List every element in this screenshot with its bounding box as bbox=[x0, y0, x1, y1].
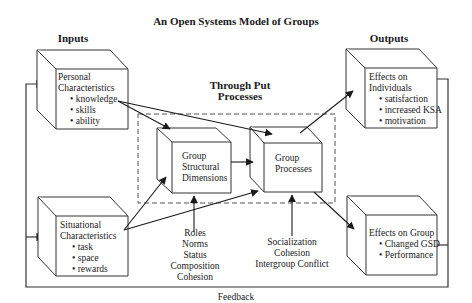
personal-title-1: Personal bbox=[58, 72, 91, 82]
feedback-label: Feedback bbox=[218, 292, 255, 302]
individuals-item: • satisfaction bbox=[379, 94, 428, 104]
individuals-title-1: Effects on bbox=[369, 72, 408, 82]
outputs-header: Outputs bbox=[370, 32, 409, 44]
effects-on-group-box: Effects on Group • Changed GSD • Perform… bbox=[347, 196, 440, 275]
structural-factor: Composition bbox=[170, 261, 219, 271]
individuals-item: • increased KSA bbox=[379, 105, 442, 115]
structural-line: Dimensions bbox=[182, 173, 228, 183]
process-factor: Socialization bbox=[267, 237, 317, 247]
structural-factors-list: Roles Norms Status Composition Cohesion bbox=[170, 228, 219, 282]
structural-factor: Status bbox=[183, 250, 207, 260]
throughput-header-line2: Processes bbox=[218, 90, 263, 102]
situational-item: • rewards bbox=[72, 264, 108, 274]
group-item: • Performance bbox=[379, 250, 433, 260]
personal-characteristics-box: Personal Characteristics • knowledge • s… bbox=[37, 50, 128, 129]
situational-title-1: Situational bbox=[60, 220, 102, 230]
personal-item: • skills bbox=[70, 105, 96, 115]
structural-line: Group bbox=[182, 151, 207, 161]
situational-item: • task bbox=[72, 242, 93, 252]
effects-on-individuals-box: Effects on Individuals • satisfaction • … bbox=[346, 49, 442, 128]
structural-factor: Norms bbox=[182, 239, 208, 249]
group-processes-box: Group Processes bbox=[250, 127, 322, 192]
personal-item: • knowledge bbox=[70, 94, 117, 104]
process-factor: Intergroup Conflict bbox=[255, 259, 329, 269]
open-systems-diagram: An Open Systems Model of Groups Inputs O… bbox=[0, 0, 472, 303]
processes-line: Group bbox=[275, 153, 300, 163]
situational-title-2: Characteristics bbox=[60, 231, 117, 241]
personal-title-2: Characteristics bbox=[58, 83, 115, 93]
inputs-header: Inputs bbox=[58, 32, 89, 44]
situational-characteristics-box: Situational Characteristics • task • spa… bbox=[38, 197, 128, 276]
group-title-1: Effects on Group bbox=[369, 228, 435, 238]
diagram-title: An Open Systems Model of Groups bbox=[153, 15, 319, 27]
individuals-item: • motivation bbox=[379, 116, 426, 126]
individuals-title-2: Individuals bbox=[369, 83, 412, 93]
processes-line: Processes bbox=[275, 164, 312, 174]
structural-factor: Roles bbox=[184, 228, 206, 238]
process-factors-list: Socialization Cohesion Intergroup Confli… bbox=[255, 237, 329, 269]
structural-line: Structural bbox=[182, 162, 220, 172]
structural-factor: Cohesion bbox=[177, 272, 213, 282]
group-item: • Changed GSD bbox=[379, 239, 440, 249]
group-structural-dimensions-box: Group Structural Dimensions bbox=[157, 128, 231, 193]
situational-item: • space bbox=[72, 253, 99, 263]
personal-item: • ability bbox=[70, 116, 100, 126]
process-factor: Cohesion bbox=[274, 248, 310, 258]
